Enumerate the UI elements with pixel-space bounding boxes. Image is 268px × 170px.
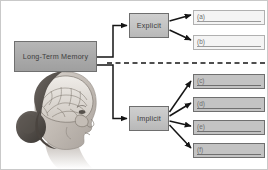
answer-box-b-label: (b) xyxy=(197,36,205,46)
head-brain-illustration xyxy=(7,63,111,169)
edge-explicit-to-b xyxy=(170,30,192,40)
edge-implicit-to-c xyxy=(170,81,192,112)
answer-box-b[interactable]: (b) xyxy=(193,35,265,50)
edge-implicit-to-f xyxy=(170,125,192,148)
edge-root-to-explicit xyxy=(97,26,127,58)
node-implicit-label: Implicit xyxy=(137,114,161,123)
edge-implicit-to-d xyxy=(170,103,192,116)
node-long-term-memory-label: Long-Term Memory xyxy=(23,52,89,61)
answer-box-a-label: (a) xyxy=(197,11,205,21)
answer-box-c-label: (c) xyxy=(197,75,204,85)
answer-box-d[interactable]: (d) xyxy=(193,97,265,112)
answer-box-d-label: (d) xyxy=(197,98,205,108)
answer-box-f[interactable]: (f) xyxy=(193,143,265,158)
hair-bun-highlight xyxy=(19,114,37,134)
node-long-term-memory[interactable]: Long-Term Memory xyxy=(14,41,97,72)
edge-explicit-to-a xyxy=(170,15,192,21)
eye xyxy=(79,110,85,114)
node-explicit[interactable]: Explicit xyxy=(129,13,169,38)
answer-box-f-label: (f) xyxy=(197,144,203,154)
answer-box-a[interactable]: (a) xyxy=(193,10,265,25)
answer-box-e[interactable]: (e) xyxy=(193,120,265,135)
edge-implicit-to-e xyxy=(170,121,192,126)
node-explicit-label: Explicit xyxy=(137,21,161,30)
diagram-canvas: Long-Term Memory Explicit Implicit (a) (… xyxy=(0,0,268,170)
answer-box-c[interactable]: (c) xyxy=(193,74,265,89)
mouth-line xyxy=(85,133,90,135)
node-implicit[interactable]: Implicit xyxy=(129,106,169,131)
answer-box-e-label: (e) xyxy=(197,121,205,131)
